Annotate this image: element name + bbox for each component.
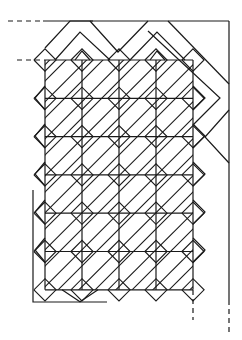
diagonal-band-edge [238,55,242,295]
diagonal-band-edge [0,55,34,295]
lattice-diagram [0,0,242,340]
chevron-small [75,51,90,60]
bottom-left-bracket [33,190,107,302]
chevron-top [130,32,185,60]
lattice-pattern-figure [0,0,242,340]
edge-notch-left [35,86,45,110]
chevron-top [90,21,148,52]
bottom-chevron [62,290,98,302]
diagonal-band-edge [222,55,242,295]
right-chevron [205,110,229,163]
chevron-top [55,32,110,60]
diagonal-band-edge [0,55,18,295]
diagonal-band-edge [201,55,242,295]
